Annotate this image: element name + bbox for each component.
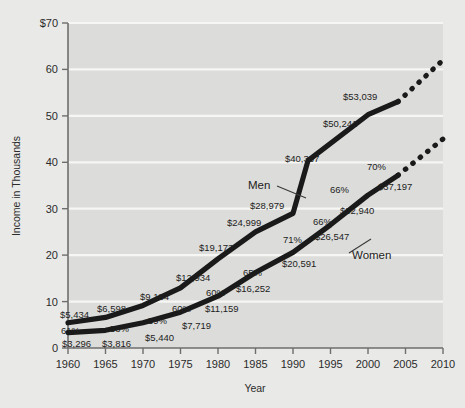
value-label-women-2000: $32,940 — [340, 205, 374, 216]
value-label-women-1970: $5,440 — [145, 332, 174, 343]
x-tick-1970: 1970 — [131, 358, 155, 370]
value-label-men-1980: $19,173 — [199, 242, 233, 253]
ratio-label-2004: 70% — [367, 161, 387, 172]
x-tick-2010: 2010 — [431, 358, 455, 370]
x-axis-title: Year — [244, 382, 266, 394]
y-tick-60: 60 — [46, 63, 58, 75]
y-tick-10: 10 — [46, 296, 58, 308]
value-label-women-1985: $16,252 — [236, 283, 270, 294]
value-label-women-1965: $3,816 — [102, 338, 131, 349]
value-label-women-1975: $7,719 — [182, 320, 211, 331]
value-label-men-1975: $12,934 — [176, 272, 210, 283]
ratio-label-2000: 66% — [330, 184, 350, 195]
y-tick-70: $70 — [40, 17, 58, 29]
value-label-women-1995: $26,547 — [315, 231, 349, 242]
value-label-men-2004: $53,039 — [343, 91, 377, 102]
ratio-label-1960: 61% — [61, 325, 81, 336]
y-tick-30: 30 — [46, 203, 58, 215]
y-tick-50: 50 — [46, 110, 58, 122]
value-label-women-2004: $37,197 — [378, 181, 412, 192]
x-tick-1995: 1995 — [318, 358, 342, 370]
ratio-label-1965: 58% — [110, 323, 130, 334]
value-label-men-1985: $24,999 — [227, 217, 261, 228]
ratio-label-1985: 65% — [243, 267, 263, 278]
income-gap-line-chart: $70 60 50 40 30 20 10 0 1960 1965 1970 1… — [0, 0, 465, 408]
x-tick-1980: 1980 — [206, 358, 230, 370]
x-tick-1985: 1985 — [243, 358, 267, 370]
series-callout-men: Men — [248, 179, 270, 191]
y-axis-title: Income in Thousands — [10, 136, 22, 236]
ratio-label-1980: 60% — [206, 287, 226, 298]
x-tick-1990: 1990 — [281, 358, 305, 370]
series-callout-women: Women — [352, 249, 391, 261]
ratio-label-1970: 59% — [148, 315, 168, 326]
ratio-label-1995: 66% — [313, 216, 333, 227]
y-tick-20: 20 — [46, 249, 58, 261]
x-tick-1965: 1965 — [93, 358, 117, 370]
ratio-label-1990: 71% — [283, 234, 303, 245]
x-tick-1960: 1960 — [56, 358, 80, 370]
value-label-women-1990: $20,591 — [282, 258, 316, 269]
value-label-men-1992: $40,367 — [285, 153, 319, 164]
y-tick-40: 40 — [46, 156, 58, 168]
value-label-men-1965: $6,598 — [97, 303, 126, 314]
chart-svg: $70 60 50 40 30 20 10 0 1960 1965 1970 1… — [0, 0, 465, 408]
x-tick-2005: 2005 — [393, 358, 417, 370]
x-tick-1975: 1975 — [168, 358, 192, 370]
value-label-men-1970: $9,184 — [140, 291, 169, 302]
y-tick-0: 0 — [52, 342, 58, 354]
value-label-men-1960: $5,434 — [60, 309, 89, 320]
x-tick-2000: 2000 — [356, 358, 380, 370]
value-label-women-1960: $3,296 — [62, 338, 91, 349]
value-label-men-2000: $50,241 — [323, 118, 357, 129]
value-label-men-1990: $28,979 — [250, 200, 284, 211]
value-label-women-1980: $11,159 — [205, 303, 239, 314]
ratio-label-1975: 60% — [172, 303, 192, 314]
